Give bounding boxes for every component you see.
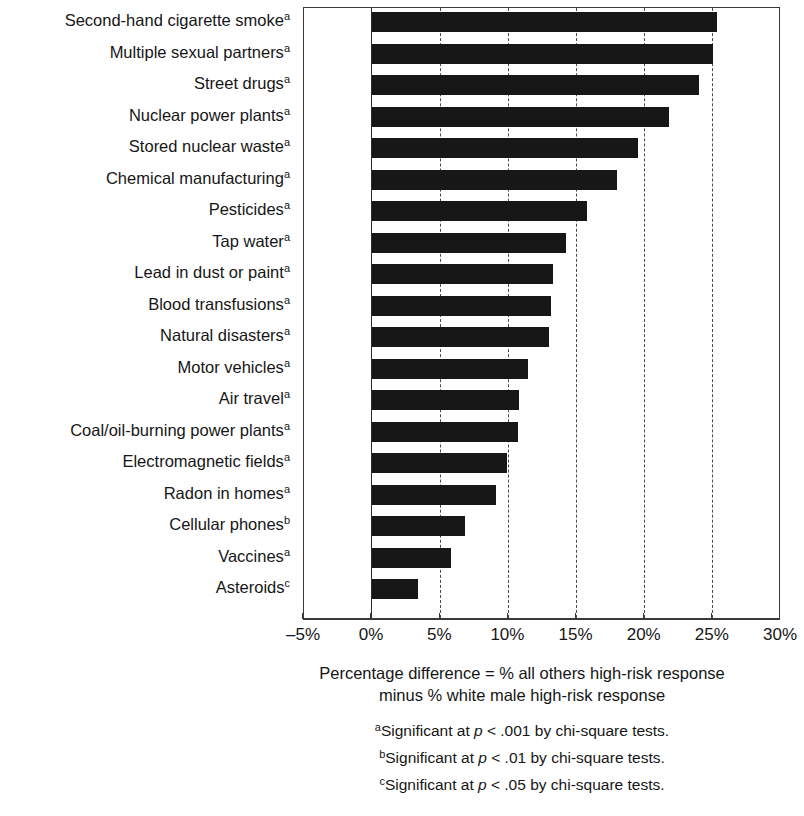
significance-mark: a [284,10,290,22]
bar-chart-figure: Second-hand cigarette smokeaMultiple sex… [0,0,804,816]
p-value-symbol: p [478,776,487,793]
category-label: Air travela [0,389,290,408]
significance-mark: a [284,546,290,558]
x-tick-label: 5% [427,625,452,645]
bar [372,453,507,473]
bar [372,12,717,32]
x-tick [507,613,508,619]
x-tick [643,613,644,619]
x-tick-label: 10% [490,625,524,645]
significance-mark: a [284,388,290,400]
significance-mark: a [284,420,290,432]
p-value-symbol: p [478,749,487,766]
significance-mark: a [284,42,290,54]
category-label: Radon in homesa [0,484,290,503]
bar [372,75,699,95]
bar [372,485,496,505]
x-tick-label: 0% [359,625,384,645]
x-tick-label: 25% [695,625,729,645]
bar [372,138,638,158]
bar [372,516,465,536]
plot-area [303,7,780,619]
gridline-15 [576,8,577,618]
category-label: Asteroidsc [0,578,290,597]
caption-line-1: Percentage difference = % all others hig… [240,662,804,684]
footnote: cSignificant at p < .05 by chi-square te… [240,772,804,799]
category-label-column: Second-hand cigarette smokeaMultiple sex… [0,7,296,619]
significance-mark: a [284,294,290,306]
bar [372,296,551,316]
category-label: Motor vehiclesa [0,358,290,377]
significance-mark: a [284,325,290,337]
x-tick-label: 15% [559,625,593,645]
category-label: Coal/oil-burning power plantsa [0,421,290,440]
category-label: Stored nuclear wastea [0,137,290,156]
bar [372,422,518,442]
significance-mark: a [284,357,290,369]
bar [372,390,519,410]
bar [372,359,527,379]
category-label: Electromagnetic fieldsa [0,452,290,471]
bar [372,44,713,64]
category-label: Lead in dust or painta [0,263,290,282]
x-tick-label: –5% [286,625,320,645]
bar [372,579,418,599]
x-tick [439,613,440,619]
axis-caption: Percentage difference = % all others hig… [240,662,804,706]
x-tick-label: 30% [763,625,797,645]
bar [372,107,669,127]
category-label: Chemical manufacturinga [0,169,290,188]
bar [372,201,587,221]
bar [372,170,617,190]
category-label: Tap watera [0,232,290,251]
x-tick [575,613,576,619]
footnote-list: aSignificant at p < .001 by chi-square t… [240,718,804,799]
category-label: Second-hand cigarette smokea [0,11,290,30]
category-label: Natural disastersa [0,326,290,345]
x-axis: –5%0%5%10%15%20%25%30% [303,619,780,620]
significance-mark: a [284,451,290,463]
x-tick [302,613,303,619]
significance-mark: a [284,483,290,495]
significance-mark: a [284,231,290,243]
gridline-20 [644,8,645,618]
category-label: Pesticidesa [0,200,290,219]
x-tick-label: 20% [627,625,661,645]
x-tick [779,613,780,619]
x-axis-line [303,619,780,620]
footnote: bSignificant at p < .01 by chi-square te… [240,745,804,772]
bar [372,264,553,284]
bar [372,327,549,347]
category-label: Vaccinesa [0,547,290,566]
category-label: Blood transfusionsa [0,295,290,314]
x-tick [711,613,712,619]
bar [372,548,451,568]
category-label: Street drugsa [0,74,290,93]
footnote-mark: a [375,721,381,733]
significance-mark: c [285,577,291,589]
significance-mark: a [284,73,290,85]
category-label: Multiple sexual partnersa [0,43,290,62]
significance-mark: a [284,168,290,180]
x-tick [370,613,371,619]
p-value-symbol: p [474,722,483,739]
bar [372,233,566,253]
significance-mark: a [284,105,290,117]
category-label: Nuclear power plantsa [0,106,290,125]
significance-mark: a [284,262,290,274]
caption-line-2: minus % white male high-risk response [240,684,804,706]
footnote-mark: c [379,775,385,787]
significance-mark: b [284,514,290,526]
footnote-mark: b [379,748,385,760]
category-label: Cellular phonesb [0,515,290,534]
footnote: aSignificant at p < .001 by chi-square t… [240,718,804,745]
significance-mark: a [284,199,290,211]
significance-mark: a [284,136,290,148]
gridline-25 [712,8,713,618]
